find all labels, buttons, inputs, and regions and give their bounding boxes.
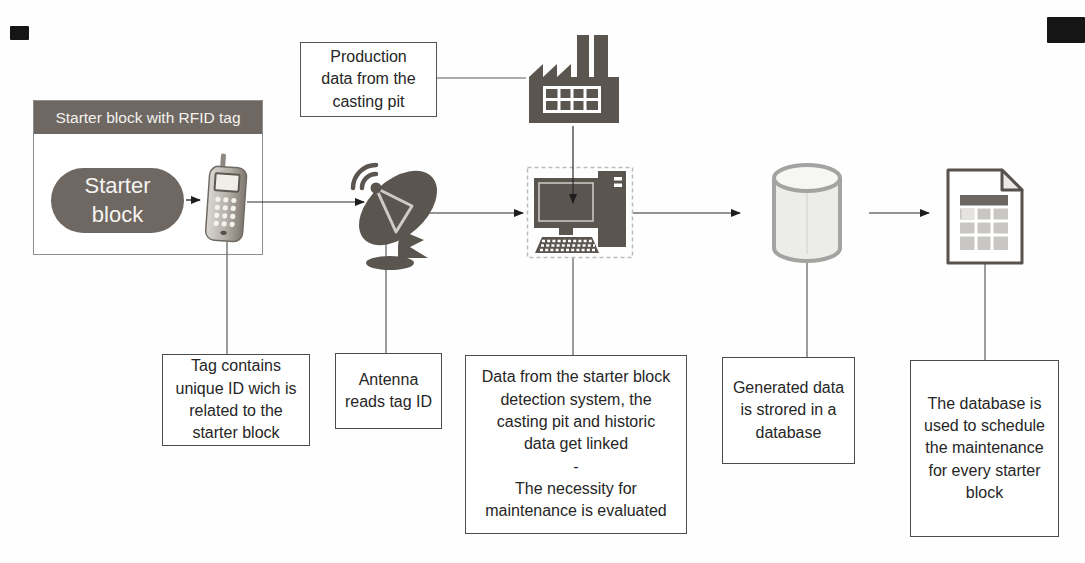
factory-to-computer-arrow-layer	[0, 0, 1085, 563]
diagram-canvas: Starter block with RFID tag Starter bloc…	[0, 0, 1085, 563]
